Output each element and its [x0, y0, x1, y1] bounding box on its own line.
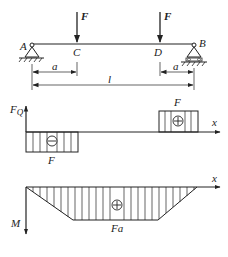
dim-label-a-left: a [52, 60, 58, 72]
shear-pos-value: F [173, 96, 181, 108]
load-label-c: F [80, 10, 89, 22]
shear-axis-label: FQ [9, 103, 24, 117]
moment-diagram: x M [10, 172, 220, 234]
point-label-b: B [199, 37, 206, 49]
diagram-canvas: F F A C D B a a l FQ x [0, 0, 228, 257]
point-label-a: A [19, 40, 27, 52]
load-d: F [160, 10, 172, 42]
moment-value: Fa [110, 222, 124, 234]
shear-x-label: x [211, 116, 217, 128]
shear-neg-value: F [47, 154, 55, 166]
point-label-c: C [73, 46, 81, 58]
load-label-d: F [163, 10, 172, 22]
point-label-d: D [153, 46, 162, 58]
moment-x-label: x [211, 172, 217, 184]
shear-diagram: FQ x F F [9, 96, 220, 166]
beam-diagram: F F A C D B a a l FQ x [0, 0, 228, 257]
dim-label-length: l [108, 73, 111, 85]
dim-label-a-right: a [173, 60, 179, 72]
moment-axis-label: M [10, 217, 21, 229]
load-c: F [77, 10, 89, 42]
